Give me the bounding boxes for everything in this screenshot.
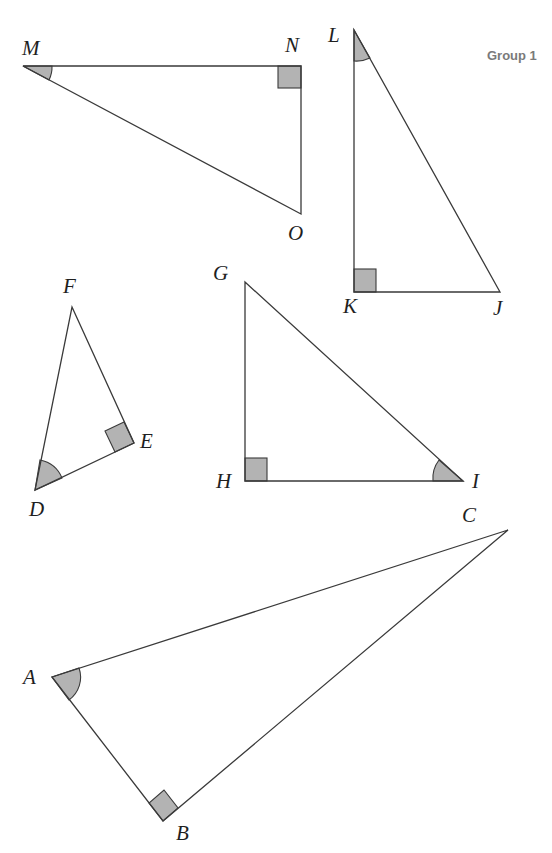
- right-angle-marker-n: [278, 66, 301, 88]
- triangle-def: F E D: [28, 274, 153, 521]
- vertex-label-i: I: [471, 469, 480, 493]
- vertex-label-g: G: [213, 261, 228, 285]
- vertex-label-j: J: [493, 296, 504, 320]
- vertex-label-m: M: [21, 36, 41, 60]
- vertex-label-n: N: [284, 33, 300, 57]
- right-angle-marker-h: [245, 458, 267, 481]
- triangle-abc-edges: [52, 530, 508, 821]
- vertex-label-k: K: [342, 294, 358, 318]
- angle-marker-i: [433, 460, 463, 481]
- vertex-label-d: D: [28, 497, 44, 521]
- vertex-label-o: O: [288, 221, 303, 245]
- group-label: Group 1: [487, 48, 537, 63]
- angle-marker-d: [35, 460, 62, 490]
- vertex-label-l: L: [327, 23, 340, 47]
- triangle-def-edges: [35, 307, 134, 490]
- triangle-lkj: L K J: [327, 23, 504, 320]
- triangle-abc: A B C: [21, 503, 508, 845]
- triangles-diagram: M N O L K J F E D G H I A B C: [0, 0, 552, 853]
- triangle-mno-edges: [23, 66, 301, 214]
- right-angle-marker-k: [354, 269, 376, 292]
- vertex-label-e: E: [139, 429, 153, 453]
- right-angle-marker-b: [149, 790, 178, 821]
- vertex-label-b: B: [176, 821, 189, 845]
- vertex-label-c: C: [462, 503, 477, 527]
- triangle-mno: M N O: [21, 33, 303, 245]
- right-angle-marker-e: [105, 422, 134, 452]
- vertex-label-f: F: [62, 274, 76, 298]
- vertex-label-h: H: [215, 469, 233, 493]
- vertex-label-a: A: [21, 665, 36, 689]
- triangle-lkj-edges: [354, 30, 500, 292]
